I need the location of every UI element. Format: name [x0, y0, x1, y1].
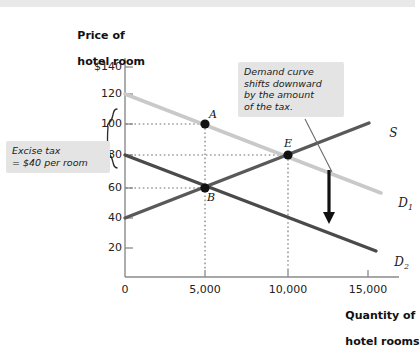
excise-tax-callout: Excise tax = $40 per room [6, 141, 110, 173]
y-tick-label-60: 60 [84, 181, 122, 194]
x-axis-title-line2: hotel rooms [345, 335, 419, 348]
demand1-label-text: D [398, 196, 408, 210]
y-tick-label-40: 40 [84, 211, 122, 224]
demand-curve-2-label: D2 [379, 241, 409, 285]
supply-label-text: S [389, 126, 397, 140]
demand2-label-text: D [394, 255, 404, 269]
y-tick-label-120: 120 [84, 87, 122, 100]
supply-curve-label: S [374, 112, 398, 154]
point-e-marker [283, 150, 292, 159]
x-tick-label-5000: 5,000 [178, 283, 232, 296]
shift-down-arrow [323, 170, 335, 224]
point-b-label: B [207, 191, 215, 204]
x-tick-label-10000: 10,000 [258, 283, 318, 296]
demand2-label-sub: 2 [404, 262, 409, 271]
x-axis-title-line1: Quantity of [345, 309, 415, 322]
demand-curve-1-label: D1 [383, 182, 413, 226]
demand1-label-sub: 1 [408, 203, 413, 212]
x-axis-title: Quantity of hotel rooms [330, 296, 410, 349]
x-axis-ticks [205, 270, 368, 277]
y-tick-label-100: 100 [84, 117, 122, 130]
point-e-label: E [284, 137, 292, 150]
y-tick-label-140: $140 [84, 60, 122, 73]
point-a-label: A [209, 108, 217, 121]
y-tick-label-20: 20 [84, 241, 122, 254]
demand-shift-callout: Demand curve shifts downward by the amou… [238, 62, 344, 117]
x-tick-label-0: 0 [111, 283, 139, 296]
y-axis-title-line1: Price of [77, 29, 124, 42]
